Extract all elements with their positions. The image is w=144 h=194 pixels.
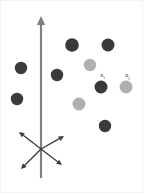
label-x-i-subscript: i: [104, 75, 105, 80]
point-dark-6: [95, 81, 108, 94]
label-x-j: xj: [125, 72, 130, 79]
arrow-up-left-line: [23, 135, 41, 149]
point-dark-3: [51, 69, 63, 81]
label-x-j-base: x: [125, 71, 129, 79]
data-points-group: [11, 38, 133, 132]
label-x-i: xi: [100, 72, 105, 79]
vertical-axis-group: [37, 16, 45, 178]
label-x-i-base: x: [100, 71, 104, 79]
point-light-2: [73, 98, 86, 111]
point-light-3: [120, 81, 133, 94]
point-dark-1: [15, 62, 27, 74]
diagram-figure: xixj: [0, 0, 144, 194]
point-dark-5: [102, 39, 115, 52]
arrow-down-right-line: [41, 149, 58, 162]
point-dark-2: [11, 93, 23, 105]
arrow-down-left-line: [25, 149, 41, 165]
diagram-canvas: [0, 0, 144, 194]
label-x-j-subscript: j: [129, 75, 130, 80]
point-light-1: [84, 59, 96, 71]
point-dark-7: [99, 120, 111, 132]
vertical-axis-arrowhead-icon: [37, 16, 45, 25]
arrow-up-right-line: [41, 139, 59, 149]
point-dark-4: [65, 38, 79, 52]
